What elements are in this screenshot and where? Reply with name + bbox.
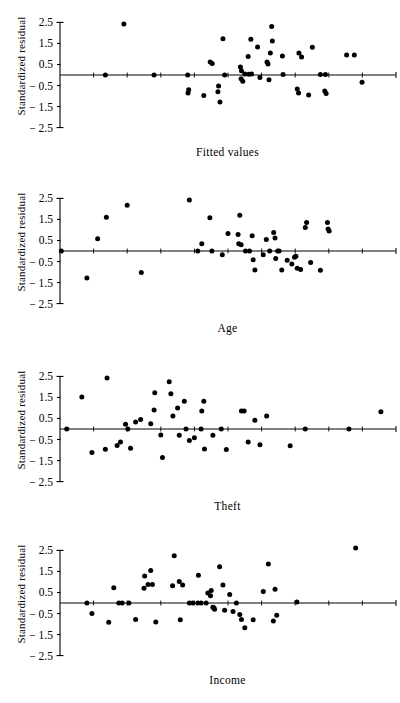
residual-panel-income: 2.51.50.5− 0.5− 1.5− 2.5 Standardized re…: [0, 528, 400, 703]
x-axis-label-2: Theft: [55, 500, 400, 512]
svg-text:− 2.5: − 2.5: [29, 476, 53, 488]
svg-text:− 1.5: − 1.5: [29, 101, 53, 113]
svg-text:− 0.5: − 0.5: [29, 256, 53, 268]
svg-text:− 2.5: − 2.5: [29, 122, 53, 134]
svg-text:− 0.5: − 0.5: [29, 608, 53, 620]
svg-text:− 0.5: − 0.5: [29, 80, 53, 92]
svg-text:1.5: 1.5: [39, 565, 54, 577]
svg-text:− 1.5: − 1.5: [29, 629, 53, 641]
y-axis-label-0: Standardized residual: [15, 6, 27, 126]
svg-text:1.5: 1.5: [39, 213, 54, 225]
svg-text:2.5: 2.5: [39, 192, 54, 204]
svg-text:2.5: 2.5: [39, 544, 54, 556]
svg-text:− 2.5: − 2.5: [29, 298, 53, 310]
svg-text:2.5: 2.5: [39, 370, 54, 382]
residual-plots-figure: 2.51.50.5− 0.5− 1.5− 2.5 Standardized re…: [0, 0, 400, 703]
residual-panel-fitted-values: 2.51.50.5− 0.5− 1.5− 2.5 Standardized re…: [0, 0, 400, 176]
svg-text:1.5: 1.5: [39, 37, 54, 49]
svg-text:2.5: 2.5: [39, 16, 54, 28]
svg-text:− 1.5: − 1.5: [29, 277, 53, 289]
x-axis-label-3: Income: [55, 674, 400, 686]
x-axis-label-1: Age: [55, 322, 400, 334]
y-axis-label-2: Standardized residual: [15, 360, 27, 480]
svg-text:0.5: 0.5: [39, 412, 54, 424]
svg-text:0.5: 0.5: [39, 586, 54, 598]
svg-text:− 1.5: − 1.5: [29, 455, 53, 467]
svg-text:1.5: 1.5: [39, 391, 54, 403]
residual-panel-theft: 2.51.50.5− 0.5− 1.5− 2.5 Standardized re…: [0, 354, 400, 530]
y-axis-label-3: Standardized residual: [15, 534, 27, 654]
svg-text:− 2.5: − 2.5: [29, 650, 53, 662]
svg-text:0.5: 0.5: [39, 58, 54, 70]
svg-text:− 0.5: − 0.5: [29, 434, 53, 446]
residual-panel-age: 2.51.50.5− 0.5− 1.5− 2.5 Standardized re…: [0, 176, 400, 352]
svg-text:0.5: 0.5: [39, 234, 54, 246]
y-axis-label-1: Standardized residual: [15, 182, 27, 302]
x-axis-label-0: Fitted values: [55, 146, 400, 158]
